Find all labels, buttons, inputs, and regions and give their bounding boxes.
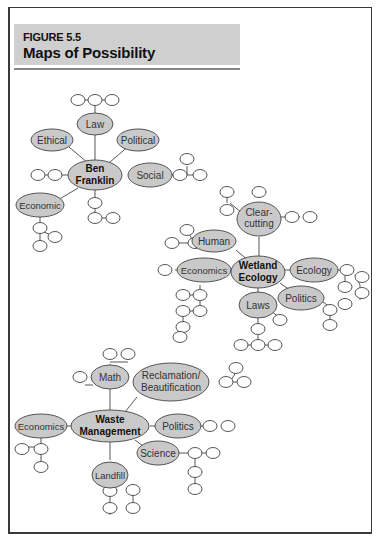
label-ecology-center: Ecology (239, 272, 278, 283)
label-cutting: cutting (244, 218, 273, 229)
label-wetland-politics: Politics (285, 293, 317, 304)
map-ben-franklin: Law Ethical Political Social Economic Be… (16, 95, 207, 252)
label-waste: Waste (95, 414, 125, 425)
label-waste-politics: Politics (162, 421, 194, 432)
label-franklin: Franklin (76, 175, 115, 186)
label-wetland-economics: Economics (181, 265, 228, 276)
label-landfill: Landfill (95, 470, 125, 481)
map-wetland-ecology: Clear- cutting Human Economics Ecology P… (158, 187, 369, 351)
label-ethical: Ethical (37, 135, 67, 146)
label-wetland: Wetland (239, 260, 278, 271)
label-economic: Economic (19, 200, 61, 211)
label-science: Science (140, 448, 176, 459)
label-beautification: Beautification (141, 382, 201, 393)
label-reclamation: Reclamation/ (142, 370, 201, 381)
label-management: Management (79, 426, 141, 437)
label-law: Law (86, 119, 105, 130)
concept-maps: Law Ethical Political Social Economic Be… (0, 0, 382, 548)
label-clear: Clear- (245, 207, 272, 218)
label-human: Human (198, 236, 230, 247)
label-ecology: Ecology (296, 265, 332, 276)
label-social: Social (136, 170, 163, 181)
label-political: Political (121, 135, 155, 146)
map-waste-management: Math Reclamation/ Beautification Economi… (15, 332, 251, 514)
label-ben: Ben (86, 163, 105, 174)
label-math: Math (99, 372, 121, 383)
label-laws: Laws (246, 300, 269, 311)
label-waste-economics: Economics (18, 421, 65, 432)
